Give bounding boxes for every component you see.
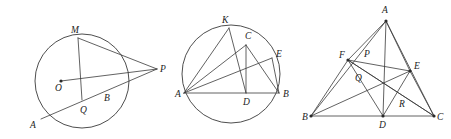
circle-with-inscribed-figure-point-label-B: B — [283, 89, 289, 99]
triangle-with-cevians-segment-DE — [383, 71, 410, 116]
circle-with-inscribed-figure-segment-KD — [229, 28, 246, 93]
triangle-with-cevians-segment-AB — [311, 21, 386, 116]
triangle-with-cevians-vertex-dot-E — [408, 69, 411, 72]
circle-with-external-point-point-label-Q: Q — [80, 105, 87, 115]
triangle-with-cevians-segment-FC — [348, 60, 434, 116]
circle-with-external-point-segment-MP — [78, 38, 157, 69]
circle-with-inscribed-figure-point-label-K: K — [221, 15, 229, 25]
triangle-with-cevians-point-label-C: C — [437, 112, 444, 122]
triangle-with-cevians-point-label-E: E — [413, 61, 420, 71]
geometry-figures-page: OMPABQKCEADBABCDEFPQR — [0, 0, 451, 139]
circle-with-external-point-point-label-M: M — [70, 25, 80, 35]
circle-with-external-point-segment-MQ — [78, 38, 82, 100]
circle-with-inscribed-figure-segment-AC — [184, 45, 246, 93]
triangle-with-cevians-segment-FE — [348, 60, 410, 71]
circle-with-inscribed-figure-segment-AK — [184, 28, 229, 93]
triangle-with-cevians-point-label-B: B — [302, 112, 308, 122]
triangle-with-cevians-segment-EC — [410, 71, 434, 116]
circle-with-inscribed-figure: KCEADB — [174, 15, 289, 123]
triangle-with-cevians-vertex-dot-A — [384, 19, 387, 22]
circle-with-inscribed-figure-point-label-C: C — [245, 31, 252, 41]
circle-with-inscribed-figure-point-label-D: D — [242, 97, 250, 107]
geometry-svg-canvas: OMPABQKCEADBABCDEFPQR — [0, 0, 451, 139]
triangle-with-cevians-segment-FD — [348, 60, 383, 116]
triangle-with-cevians-point-label-F: F — [338, 50, 345, 60]
circle-with-external-point-point-label-O: O — [55, 83, 62, 93]
circle-with-external-point-point-label-B: B — [104, 93, 110, 103]
triangle-with-cevians-point-label-Q: Q — [355, 73, 362, 83]
triangle-with-cevians-segment-AD — [383, 21, 386, 116]
triangle-with-cevians-vertex-dot-F — [346, 58, 349, 61]
triangle-with-cevians-point-label-P: P — [363, 49, 370, 59]
triangle-with-cevians-vertex-dot-D — [381, 114, 384, 117]
circle-with-inscribed-figure-point-label-E: E — [275, 49, 282, 59]
triangle-with-cevians-point-label-R: R — [398, 99, 405, 109]
triangle-with-cevians-point-label-A: A — [381, 5, 388, 15]
circle-with-external-point-point-label-P: P — [159, 64, 166, 74]
triangle-with-cevians-vertex-dot-B — [309, 114, 312, 117]
circle-with-external-point-point-label-A: A — [29, 120, 36, 130]
triangle-with-cevians-segment-AE — [386, 21, 410, 71]
triangle-with-cevians: ABCDEFPQR — [302, 5, 444, 130]
triangle-with-cevians-vertex-dot-C — [432, 114, 435, 117]
circle-with-external-point: OMPABQ — [29, 25, 166, 130]
triangle-with-cevians-point-label-D: D — [378, 120, 386, 130]
circle-with-inscribed-figure-point-label-A: A — [174, 89, 181, 99]
